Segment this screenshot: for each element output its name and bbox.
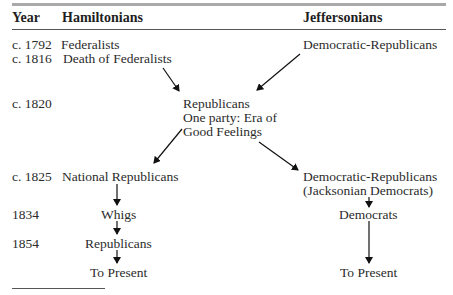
arrow-republicans-to-national-republicans [154, 129, 182, 163]
arrow-demrep-to-republicans [257, 54, 300, 90]
arrow-republicans-to-jacksonian [259, 142, 298, 170]
arrows-layer [0, 0, 453, 295]
footnote-rule [12, 288, 105, 289]
arrow-federalists-to-republicans [163, 68, 179, 91]
